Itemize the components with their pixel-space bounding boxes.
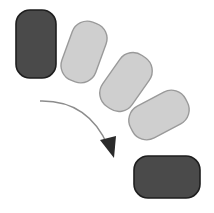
arrow-head-icon <box>100 136 116 158</box>
rounded-block-end <box>134 156 200 198</box>
curved-arrow-line <box>40 101 108 146</box>
rounded-block-start <box>16 10 56 78</box>
rotation-diagram <box>0 0 214 213</box>
shapes-layer <box>16 10 200 198</box>
rounded-block-step-1 <box>56 17 111 88</box>
